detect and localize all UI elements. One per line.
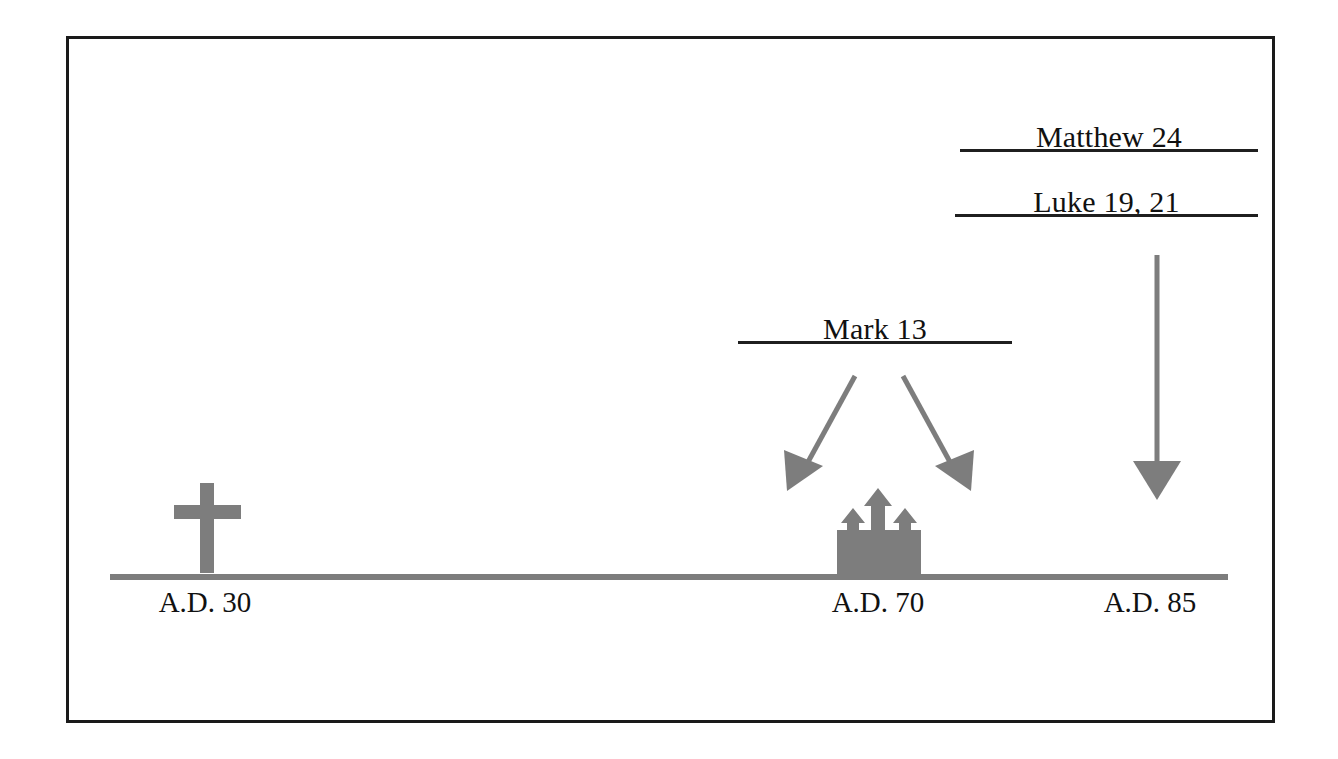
cross-icon (160, 470, 260, 580)
diagram-canvas: Matthew 24 Luke 19, 21 Mark 13 (0, 0, 1338, 759)
passage-rule-luke (955, 214, 1258, 217)
passage-rule-matthew (960, 149, 1258, 152)
passage-label-matthew: Matthew 24 (960, 122, 1258, 152)
timeline-tick-label-ad85: A.D. 85 (1104, 588, 1197, 617)
passage-label-luke: Luke 19, 21 (955, 187, 1258, 217)
passage-rule-mark (738, 341, 1012, 344)
passage-label-mark: Mark 13 (738, 314, 1012, 344)
cross-vertical-bar (200, 483, 214, 573)
burning-temple-icon (832, 483, 928, 578)
timeline-axis (110, 574, 1228, 580)
timeline-tick-label-ad30: A.D. 30 (159, 588, 252, 617)
cross-horizontal-bar (174, 505, 241, 519)
timeline-tick-label-ad70: A.D. 70 (832, 588, 925, 617)
temple-flames (832, 483, 928, 578)
